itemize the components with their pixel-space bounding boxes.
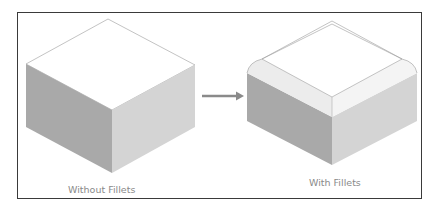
caption-without-fillets: Without Fillets (68, 184, 135, 195)
caption-with-fillets: With Fillets (309, 177, 361, 188)
box-with-fillets (247, 21, 417, 165)
box-without-fillets (26, 19, 195, 173)
right-arrow-icon (202, 92, 244, 101)
fillet-comparison-diagram (0, 0, 442, 210)
